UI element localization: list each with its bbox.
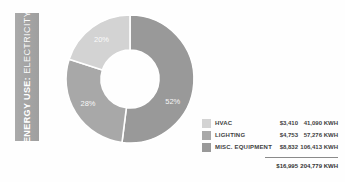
- legend-label: HVAC: [215, 120, 265, 126]
- page-title-secondary: ELECTRICITY: [22, 11, 32, 74]
- legend-table: HVAC$3,41041,090 KWHLIGHTING$4,75357,276…: [202, 117, 338, 172]
- page-title: ENERGY USE: ELECTRICITY: [15, 13, 39, 141]
- totals-row: $16,995 204,779 KWH: [202, 160, 338, 172]
- legend-rows: HVAC$3,41041,090 KWHLIGHTING$4,75357,276…: [202, 117, 338, 153]
- legend-label: MISC. EQUIPMENT: [215, 144, 265, 150]
- legend-row[interactable]: LIGHTING$4,75357,276 KWH: [202, 129, 338, 141]
- legend-row[interactable]: HVAC$3,41041,090 KWH: [202, 117, 338, 129]
- totals-divider: [265, 157, 338, 158]
- legend-swatch: [202, 143, 211, 152]
- donut-segment-lighting[interactable]: [66, 59, 126, 142]
- segment-percent-label: 52%: [165, 97, 180, 106]
- legend-kwh-value: 41,090 KWH: [298, 120, 338, 126]
- legend-cost-value: $3,410: [265, 120, 298, 126]
- legend-cost-value: $8,832: [265, 144, 298, 150]
- total-cost-value: $16,995: [265, 163, 298, 169]
- legend-kwh-value: 106,413 KWH: [298, 144, 338, 150]
- total-kwh-value: 204,779 KWH: [298, 163, 338, 169]
- energy-donut-chart[interactable]: 52%28%20%: [60, 9, 200, 149]
- legend-swatch: [202, 119, 211, 128]
- energy-use-widget: ENERGY USE: ELECTRICITY 52%28%20% HVAC$3…: [0, 0, 345, 182]
- segment-percent-label: 28%: [80, 99, 95, 108]
- legend-swatch: [202, 131, 211, 140]
- segment-percent-label: 20%: [94, 35, 109, 44]
- legend-label: LIGHTING: [215, 132, 265, 138]
- page-title-primary: ENERGY USE:: [22, 77, 32, 143]
- donut-segment-misc-equipment[interactable]: [122, 15, 194, 143]
- legend-cost-value: $4,753: [265, 132, 298, 138]
- legend-kwh-value: 57,276 KWH: [298, 132, 338, 138]
- legend-row[interactable]: MISC. EQUIPMENT$8,832106,413 KWH: [202, 141, 338, 153]
